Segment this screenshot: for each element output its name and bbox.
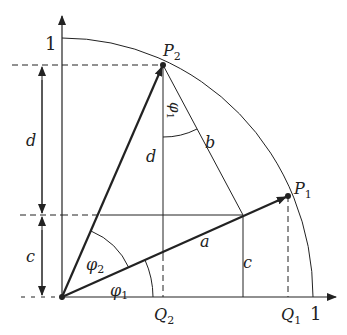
- p2-label: P2: [162, 41, 181, 63]
- q1-label: Q1: [281, 305, 301, 327]
- phi1-at-p2-label: φ1: [165, 102, 184, 119]
- vector-op1: [62, 197, 286, 297]
- a-label: a: [200, 232, 210, 251]
- d-mid-label: d: [146, 147, 156, 166]
- vector-op2: [62, 67, 162, 297]
- phi1-label: φ1: [110, 281, 128, 302]
- y-one-label: 1: [45, 33, 56, 54]
- phi1-arc: [145, 260, 153, 297]
- q2-label: Q2: [154, 305, 174, 327]
- p2-point: [160, 62, 166, 68]
- segment-b: [163, 65, 243, 215]
- d-left-label: d: [26, 131, 36, 150]
- c-right-label: c: [243, 253, 252, 272]
- origin-point: [59, 294, 65, 300]
- phi2-label: φ2: [86, 255, 104, 276]
- phi1-at-p2-arc: [163, 129, 197, 137]
- b-label: b: [205, 133, 215, 152]
- unit-arc: [62, 38, 313, 297]
- vector-diagram: 1 1 P2 P1 Q2 Q1 d d c c a b φ1 φ2 φ1: [0, 0, 347, 335]
- p1-point: [285, 193, 291, 199]
- c-left-label: c: [26, 247, 35, 266]
- x-one-label: 1: [310, 303, 321, 324]
- p1-label: P1: [293, 179, 312, 201]
